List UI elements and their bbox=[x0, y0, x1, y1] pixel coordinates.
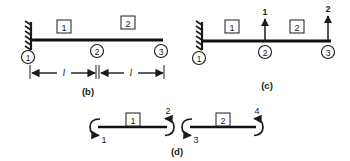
load-arrow-c-2-label: 2 bbox=[325, 4, 330, 14]
element-label-b-2: 2 bbox=[121, 16, 135, 29]
element-label-c-2-text: 2 bbox=[294, 23, 299, 33]
panel-b-caption: (b) bbox=[82, 86, 94, 97]
element-label-c-1: 1 bbox=[225, 20, 239, 33]
figure-canvas: 1 2 1 2 3 bbox=[0, 0, 350, 161]
element-label-c-2: 2 bbox=[290, 20, 304, 33]
dimension-b-1-label: l bbox=[63, 67, 66, 78]
dof-arc-d-2: 2 bbox=[165, 106, 174, 136]
element-label-d-1: 1 bbox=[126, 113, 140, 126]
node-c-2-text: 2 bbox=[263, 48, 268, 58]
dof-arc-d-1-label: 1 bbox=[101, 135, 106, 145]
dof-arc-d-1: 1 bbox=[90, 119, 107, 145]
node-c-1: 1 bbox=[193, 52, 206, 65]
element-label-d-1-text: 1 bbox=[130, 116, 135, 126]
load-arrow-c-1: 1 bbox=[262, 7, 267, 41]
node-b-3-text: 3 bbox=[159, 47, 164, 57]
panel-d-element-1: 1 2 1 bbox=[90, 106, 174, 145]
dof-arc-d-3-label: 3 bbox=[193, 135, 198, 145]
element-label-b-1-text: 1 bbox=[61, 23, 66, 33]
structural-diagram-figure: 1 2 1 2 3 bbox=[0, 0, 350, 161]
panel-c-caption: (c) bbox=[261, 80, 273, 91]
dof-arc-d-2-label: 2 bbox=[165, 106, 170, 116]
node-b-2: 2 bbox=[91, 45, 104, 58]
element-label-b-1: 1 bbox=[57, 20, 71, 33]
node-b-3: 3 bbox=[155, 45, 168, 58]
node-c-2: 2 bbox=[259, 46, 272, 59]
fixed-support-icon-b bbox=[25, 21, 31, 50]
dof-arc-d-4: 4 bbox=[254, 106, 263, 136]
panel-d: 1 2 1 3 bbox=[90, 106, 263, 157]
dof-arc-d-4-label: 4 bbox=[254, 106, 259, 116]
load-arrow-c-1-label: 1 bbox=[262, 7, 267, 17]
node-c-3-text: 3 bbox=[326, 48, 331, 58]
node-b-1-text: 1 bbox=[26, 53, 31, 63]
panel-c: 1 2 1 2 1 2 bbox=[193, 4, 335, 91]
fixed-support-icon-c bbox=[196, 21, 202, 50]
element-label-d-2: 2 bbox=[216, 113, 230, 126]
panel-b: 1 2 1 2 3 bbox=[22, 16, 168, 97]
node-b-2-text: 2 bbox=[95, 47, 100, 57]
panel-d-element-2: 3 4 2 bbox=[182, 106, 263, 145]
element-label-d-2-text: 2 bbox=[220, 116, 225, 126]
load-arrow-c-2: 2 bbox=[325, 4, 330, 41]
dimension-b-2: l bbox=[99, 65, 164, 79]
element-label-c-1-text: 1 bbox=[229, 23, 234, 33]
node-b-1: 1 bbox=[22, 51, 35, 64]
node-c-3: 3 bbox=[322, 46, 335, 59]
panel-d-caption: (d) bbox=[171, 146, 183, 157]
node-c-1-text: 1 bbox=[197, 54, 202, 64]
dimension-b-2-label: l bbox=[130, 67, 133, 78]
dimension-b-1: l bbox=[30, 65, 96, 79]
dof-arc-d-3: 3 bbox=[182, 119, 199, 145]
element-label-b-2-text: 2 bbox=[125, 19, 130, 29]
